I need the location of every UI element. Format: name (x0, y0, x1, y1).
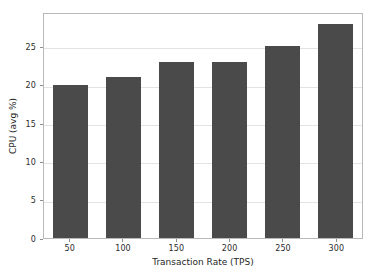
x-axis-tick: 150 (150, 239, 203, 255)
bars-layer (44, 14, 362, 238)
y-axis-tick: 20 (26, 80, 43, 92)
bar-slot (97, 14, 150, 238)
bar-slot (309, 14, 362, 238)
x-axis-tick-mark (176, 239, 177, 242)
x-axis-tick: 100 (96, 239, 149, 255)
bar[interactable] (159, 62, 195, 238)
x-axis-tick-mark (69, 239, 70, 242)
x-axis-tick-label: 150 (169, 244, 185, 253)
x-axis-tick: 50 (43, 239, 96, 255)
x-axis-tick-mark (122, 239, 123, 242)
x-axis-tick-mark (282, 239, 283, 242)
y-axis-tick-label: 5 (31, 196, 40, 205)
x-axis-tick-label: 50 (64, 244, 74, 253)
y-axis-tick-label: 20 (26, 81, 40, 90)
x-axis-tick-mark (229, 239, 230, 242)
bar[interactable] (212, 62, 248, 238)
y-axis-tick: 10 (26, 156, 43, 168)
y-axis-tick: 5 (31, 195, 43, 207)
x-axis-tick-label: 300 (329, 244, 345, 253)
y-axis-tick-label: 10 (26, 158, 40, 167)
bar-slot (203, 14, 256, 238)
x-axis-tick: 250 (256, 239, 309, 255)
plot-area (43, 13, 363, 239)
bar-slot (256, 14, 309, 238)
y-axis-tick: 15 (26, 118, 43, 130)
bar[interactable] (318, 24, 354, 239)
x-axis-tick-label: 100 (115, 244, 131, 253)
bar-slot (44, 14, 97, 238)
y-axis-tick-label: 25 (26, 43, 40, 52)
x-axis-tick: 300 (310, 239, 363, 255)
x-axis-tick: 200 (203, 239, 256, 255)
bar-slot (150, 14, 203, 238)
y-axis-ticks: 0510152025 (0, 13, 43, 239)
y-axis-tick-label: 15 (26, 120, 40, 129)
x-axis-ticks: 50100150200250300 (43, 239, 363, 255)
bar[interactable] (53, 85, 89, 238)
bar[interactable] (106, 77, 142, 238)
bar[interactable] (265, 46, 301, 238)
bar-chart-figure: CPU (avg %) 0510152025 50100150200250300… (0, 0, 381, 276)
x-axis-tick-label: 200 (222, 244, 238, 253)
x-axis-tick-mark (336, 239, 337, 242)
y-axis-tick: 0 (31, 233, 43, 245)
x-axis-title: Transaction Rate (TPS) (43, 257, 363, 267)
y-axis-tick: 25 (26, 41, 43, 53)
x-axis-tick-label: 250 (275, 244, 291, 253)
y-axis-tick-label: 0 (31, 235, 40, 244)
